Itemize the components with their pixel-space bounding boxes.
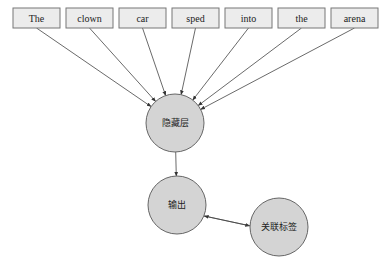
input-word-label: clown (77, 13, 101, 24)
edge-hidden-to-output (176, 152, 177, 176)
input-word-box: car (119, 8, 166, 28)
associated-label-node: 关联标签 (250, 198, 308, 256)
edge-label-to-output (204, 216, 249, 226)
edge-word-3-to-hidden (181, 28, 195, 95)
associated-label-text: 关联标签 (261, 221, 297, 232)
edge-word-4-to-hidden (193, 28, 249, 100)
edge-word-5-to-hidden (198, 28, 301, 106)
input-word-label: the (295, 13, 308, 24)
edge-word-2-to-hidden (143, 28, 166, 96)
hidden-layer-node: 隐藏层 (146, 94, 204, 152)
edge-word-6-to-hidden (201, 28, 355, 109)
input-word-label: The (29, 13, 45, 24)
output-node: 输出 (148, 176, 206, 234)
edge-word-0-to-hidden (37, 28, 152, 107)
input-word-box: clown (66, 8, 113, 28)
input-word-label: sped (186, 13, 204, 24)
input-word-label: into (241, 13, 257, 24)
edge-word-1-to-hidden (90, 28, 156, 101)
input-word-label: car (136, 13, 149, 24)
input-word-box: into (225, 8, 272, 28)
output-label: 输出 (168, 199, 186, 210)
input-word-box: arena (331, 8, 378, 28)
input-word-box: sped (172, 8, 219, 28)
hidden-layer-label: 隐藏层 (162, 117, 189, 128)
input-word-label: arena (344, 13, 366, 24)
input-word-box: The (13, 8, 60, 28)
input-words: Theclowncarspedintothearena (13, 8, 378, 28)
neural-network-diagram: Theclowncarspedintothearena 隐藏层 输出 关联标签 (0, 0, 389, 266)
input-word-box: the (278, 8, 325, 28)
